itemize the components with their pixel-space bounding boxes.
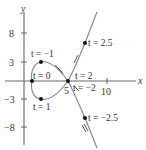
label-t-2: t = 2 <box>75 71 93 81</box>
x-axis-label: x <box>137 75 143 86</box>
direction-arrow-icon <box>55 65 63 74</box>
direction-arrow-icon <box>82 124 88 132</box>
y-axis-label: y <box>20 3 26 14</box>
label-t-neg2: t = −2 <box>73 83 96 93</box>
y-tick-label-3: 3 <box>9 57 14 68</box>
label-t-1: t = 1 <box>33 102 51 112</box>
label-t-2-5: t = 2.5 <box>88 38 113 48</box>
label-t-neg1: t = −1 <box>31 49 54 59</box>
label-t-0: t = 0 <box>33 71 51 81</box>
point-t-neg2-5 <box>83 116 87 120</box>
parametric-curve-chart: y x 8 3 −3 −8 5 10 t = −1 t = 0 t = 1 t … <box>0 0 146 150</box>
label-t-neg2-5: t = −2.5 <box>88 113 118 123</box>
y-tick-label-8: 8 <box>9 28 14 39</box>
y-tick-label-neg8: −8 <box>4 122 15 133</box>
x-tick-label-5: 5 <box>64 85 69 96</box>
point-node <box>66 79 70 83</box>
point-t-2-5 <box>83 41 87 45</box>
x-tick-label-10: 10 <box>101 86 111 97</box>
point-t-1 <box>39 97 43 101</box>
y-tick-label-neg3: −3 <box>4 94 15 105</box>
point-t-neg1 <box>39 60 43 64</box>
